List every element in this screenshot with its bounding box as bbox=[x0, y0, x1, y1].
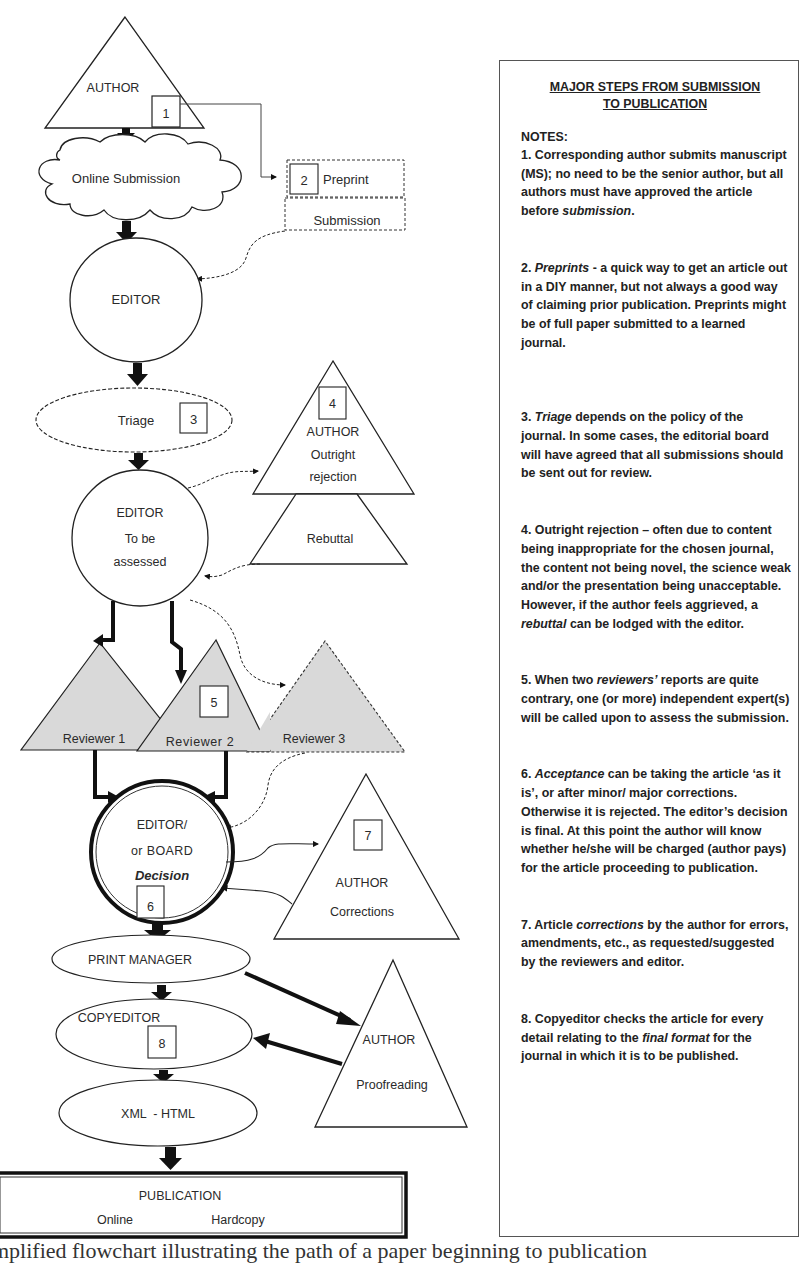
author-proofreading-node: AUTHOR Proofreading bbox=[315, 960, 467, 1127]
svg-text:or BOARD: or BOARD bbox=[131, 844, 193, 858]
svg-text:Proofreading: Proofreading bbox=[356, 1078, 428, 1092]
svg-text:PRINT MANAGER: PRINT MANAGER bbox=[88, 953, 192, 967]
publication-node: PUBLICATION Online Hardcopy bbox=[0, 1173, 406, 1237]
print-manager-node: PRINT MANAGER bbox=[52, 935, 250, 983]
note-3: 3. Triage depends on the policy of the j… bbox=[521, 408, 791, 483]
note-2: 2. Preprints - a quick way to get an art… bbox=[521, 259, 791, 353]
connector-corrections-decision bbox=[222, 888, 292, 904]
online-submission-node: Online Submission bbox=[39, 134, 241, 220]
arrow-proofreading-copyeditor bbox=[265, 1041, 342, 1064]
note-5: 5. When two reviewers’ reports are quite… bbox=[521, 671, 791, 727]
flowchart: AUTHOR 1 Online Submission 2 Preprint Su… bbox=[0, 0, 500, 1240]
svg-text:Submission: Submission bbox=[313, 213, 380, 228]
xml-html-node: XML - HTML bbox=[59, 1080, 257, 1146]
connector-decision-corrections bbox=[226, 844, 318, 862]
connector-submission-editor bbox=[197, 231, 285, 279]
editor-assess-node: EDITOR To be assessed bbox=[72, 470, 208, 606]
svg-text:AUTHOR: AUTHOR bbox=[363, 1033, 416, 1047]
connector-rebuttal bbox=[205, 564, 260, 577]
svg-text:Reviewer 1: Reviewer 1 bbox=[63, 732, 126, 746]
svg-text:5: 5 bbox=[211, 696, 218, 710]
author-submit-node: AUTHOR 1 bbox=[45, 17, 204, 128]
reviewer-3-node: Reviewer 3 bbox=[247, 641, 405, 752]
svg-text:assessed: assessed bbox=[114, 555, 167, 569]
svg-text:PUBLICATION: PUBLICATION bbox=[139, 1189, 221, 1203]
author-label: AUTHOR bbox=[87, 81, 140, 95]
author-corrections-node: 7 AUTHOR Corrections bbox=[274, 774, 459, 939]
svg-text:1: 1 bbox=[163, 107, 170, 121]
svg-text:COPYEDITOR: COPYEDITOR bbox=[78, 1011, 160, 1025]
svg-text:Online: Online bbox=[97, 1213, 133, 1227]
triage-node: Triage 3 bbox=[36, 388, 232, 452]
preprint-node: 2 Preprint Submission bbox=[285, 160, 405, 230]
svg-text:8: 8 bbox=[159, 1037, 166, 1051]
svg-text:To be: To be bbox=[125, 532, 156, 546]
svg-text:6: 6 bbox=[147, 900, 154, 914]
svg-text:Outright: Outright bbox=[311, 448, 356, 462]
note-8: 8. Copyeditor checks the article for eve… bbox=[521, 1010, 791, 1066]
svg-text:XML - HTML: XML - HTML bbox=[121, 1107, 195, 1121]
svg-text:Reviewer 3: Reviewer 3 bbox=[283, 732, 346, 746]
svg-text:AUTHOR: AUTHOR bbox=[307, 425, 360, 439]
note-4: 4. Outright rejection – often due to con… bbox=[521, 521, 791, 633]
svg-text:Preprint: Preprint bbox=[323, 172, 369, 187]
notes-panel: MAJOR STEPS FROM SUBMISSION TO PUBLICATI… bbox=[499, 60, 799, 1237]
figure-caption: mplified flowchart illustrating the path… bbox=[0, 1238, 647, 1264]
notes-label: NOTES: bbox=[521, 129, 798, 146]
svg-text:Hardcopy: Hardcopy bbox=[211, 1213, 265, 1227]
reviewer-2-node: 5 Reviewer 2 bbox=[137, 640, 270, 751]
svg-text:3: 3 bbox=[190, 412, 197, 427]
rebuttal-node: Rebuttal bbox=[250, 494, 407, 564]
note-7: 7. Article corrections by the author for… bbox=[521, 916, 791, 972]
arrow-down bbox=[127, 363, 148, 386]
svg-text:rejection: rejection bbox=[309, 470, 356, 484]
svg-text:2: 2 bbox=[300, 173, 307, 188]
svg-text:Rebuttal: Rebuttal bbox=[307, 532, 354, 546]
svg-text:7: 7 bbox=[365, 829, 372, 843]
arrow-down bbox=[159, 1147, 182, 1170]
editor-node: EDITOR bbox=[70, 238, 202, 362]
svg-text:EDITOR/: EDITOR/ bbox=[137, 818, 188, 832]
svg-text:Decision: Decision bbox=[135, 868, 189, 883]
svg-text:Online Submission: Online Submission bbox=[72, 171, 180, 186]
svg-text:Corrections: Corrections bbox=[330, 905, 394, 919]
author-rejection-node: 4 AUTHOR Outright rejection bbox=[253, 361, 414, 494]
svg-text:EDITOR: EDITOR bbox=[117, 506, 164, 520]
arrow-reviewer-2-decision bbox=[213, 751, 226, 797]
svg-text:EDITOR: EDITOR bbox=[112, 292, 161, 307]
copyeditor-node: COPYEDITOR 8 bbox=[56, 999, 252, 1069]
arrow-down bbox=[128, 453, 149, 470]
notes-title: MAJOR STEPS FROM SUBMISSION TO PUBLICATI… bbox=[521, 79, 789, 113]
svg-text:4: 4 bbox=[329, 397, 336, 411]
decision-node: EDITOR/ or BOARD Decision 6 bbox=[91, 781, 233, 923]
note-1: 1. Corresponding author submits manuscri… bbox=[521, 146, 791, 221]
note-6: 6. Acceptance can be taking the article … bbox=[521, 765, 791, 877]
connector-to-rejection bbox=[188, 471, 258, 488]
arrow-reviewer-1-decision bbox=[95, 750, 109, 797]
arrow-to-proofreading bbox=[245, 973, 350, 1020]
connector-reviewer-3-decision bbox=[226, 753, 305, 828]
svg-text:Reviewer 2: Reviewer 2 bbox=[166, 735, 235, 749]
arrow-to-reviewer-2 bbox=[172, 601, 181, 672]
svg-text:AUTHOR: AUTHOR bbox=[336, 876, 389, 890]
svg-text:Triage: Triage bbox=[118, 413, 154, 428]
